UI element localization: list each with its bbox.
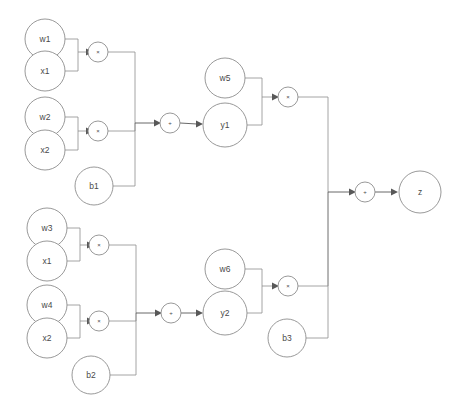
node-z[interactable]: z	[399, 171, 441, 213]
node-multiply-1[interactable]: ×	[88, 42, 108, 62]
node-w6-label: w6	[219, 264, 231, 274]
edge-x2b-mul4	[66, 321, 80, 338]
edge-w3-mul3	[66, 228, 87, 245]
node-w5[interactable]: w5	[205, 58, 245, 98]
node-multiply-2[interactable]: ×	[88, 121, 108, 141]
edge-group-sum1-to-y1	[180, 121, 203, 128]
node-b2-label: b2	[86, 370, 96, 380]
node-multiply-5[interactable]: ×	[278, 87, 298, 107]
node-x1-upper-label: x1	[41, 66, 50, 76]
edge-group-sum3-to-z	[375, 189, 398, 196]
edge-mul6-bus3	[298, 192, 328, 286]
multiply-icon: ×	[96, 128, 100, 134]
edge-group-bus3-to-sum3	[298, 97, 356, 338]
edge-w5-mul5	[245, 78, 273, 97]
multiply-icon: ×	[96, 49, 100, 55]
edge-x1b-mul3	[66, 245, 80, 261]
node-y1[interactable]: y1	[203, 103, 247, 147]
node-b1[interactable]: b1	[75, 167, 113, 205]
node-w1-label: w1	[39, 34, 51, 44]
node-add-3[interactable]: +	[355, 182, 375, 202]
multiply-icon: ×	[286, 283, 290, 289]
node-w3-label: w3	[41, 223, 53, 233]
node-w5-label: w5	[219, 73, 231, 83]
edge-mul4-bus2	[109, 313, 136, 321]
arrowhead-z	[391, 189, 398, 196]
edge-mul1-bus1	[108, 52, 135, 123]
node-multiply-6[interactable]: ×	[278, 276, 298, 296]
node-y2[interactable]: y2	[203, 291, 247, 335]
node-w6[interactable]: w6	[205, 249, 245, 289]
plus-icon: +	[168, 120, 172, 126]
edge-mul3-bus2	[109, 245, 136, 313]
edge-mul2-bus1	[108, 123, 135, 131]
edge-group-w5y1-to-mul5	[245, 78, 279, 125]
edge-y2-mul6	[247, 286, 262, 313]
node-w4-label: w4	[41, 300, 53, 310]
node-b3[interactable]: b3	[268, 319, 306, 357]
node-x1-lower-label: x1	[43, 256, 52, 266]
multiply-icon: ×	[97, 242, 101, 248]
edge-sum1-y1	[180, 123, 197, 124]
edge-group-w6y2-to-mul6	[245, 269, 279, 313]
edge-b3-bus3	[306, 192, 328, 338]
arrowhead-y2	[196, 310, 203, 317]
plus-icon: +	[363, 189, 367, 195]
node-z-label: z	[418, 187, 422, 197]
edge-mul5-bus3	[298, 97, 328, 192]
edge-w4-mul4	[66, 305, 87, 321]
node-multiply-4[interactable]: ×	[89, 311, 109, 331]
node-add-1[interactable]: +	[160, 113, 180, 133]
edge-y1-mul5	[247, 97, 262, 125]
node-b2[interactable]: b2	[72, 356, 110, 394]
node-add-2[interactable]: +	[161, 303, 181, 323]
multiply-icon: ×	[97, 318, 101, 324]
node-multiply-3[interactable]: ×	[89, 235, 109, 255]
node-x2-upper[interactable]: x2	[25, 130, 65, 170]
arrowhead-y1	[196, 121, 203, 128]
diagram-canvas: w1 x1 × w2 x2 × b1	[0, 0, 459, 410]
computational-graph: w1 x1 × w2 x2 × b1	[0, 0, 459, 410]
node-x2-lower-label: x2	[43, 333, 52, 343]
node-x1-upper[interactable]: x1	[25, 51, 65, 91]
node-x2-lower[interactable]: x2	[27, 318, 67, 358]
edge-group-sum2-to-y2	[181, 310, 203, 317]
node-w2-label: w2	[39, 112, 51, 122]
edge-w1-mul1	[64, 39, 86, 52]
edge-w2-mul2	[64, 117, 86, 131]
node-b3-label: b3	[282, 333, 292, 343]
edge-b1-bus1	[113, 123, 135, 186]
edge-group-bus2-to-sum2	[109, 245, 162, 375]
edge-x2a-mul2	[64, 131, 78, 150]
node-x1-lower[interactable]: x1	[27, 241, 67, 281]
plus-icon: +	[169, 310, 173, 316]
edge-group-bus1-to-sum1	[108, 52, 161, 186]
edge-x1a-mul1	[64, 52, 78, 71]
node-y1-label: y1	[221, 120, 230, 130]
node-y2-label: y2	[221, 308, 230, 318]
edge-w6-mul6	[245, 269, 273, 286]
edge-b2-bus2	[110, 313, 136, 375]
node-b1-label: b1	[89, 181, 99, 191]
node-x2-upper-label: x2	[41, 145, 50, 155]
multiply-icon: ×	[286, 94, 290, 100]
